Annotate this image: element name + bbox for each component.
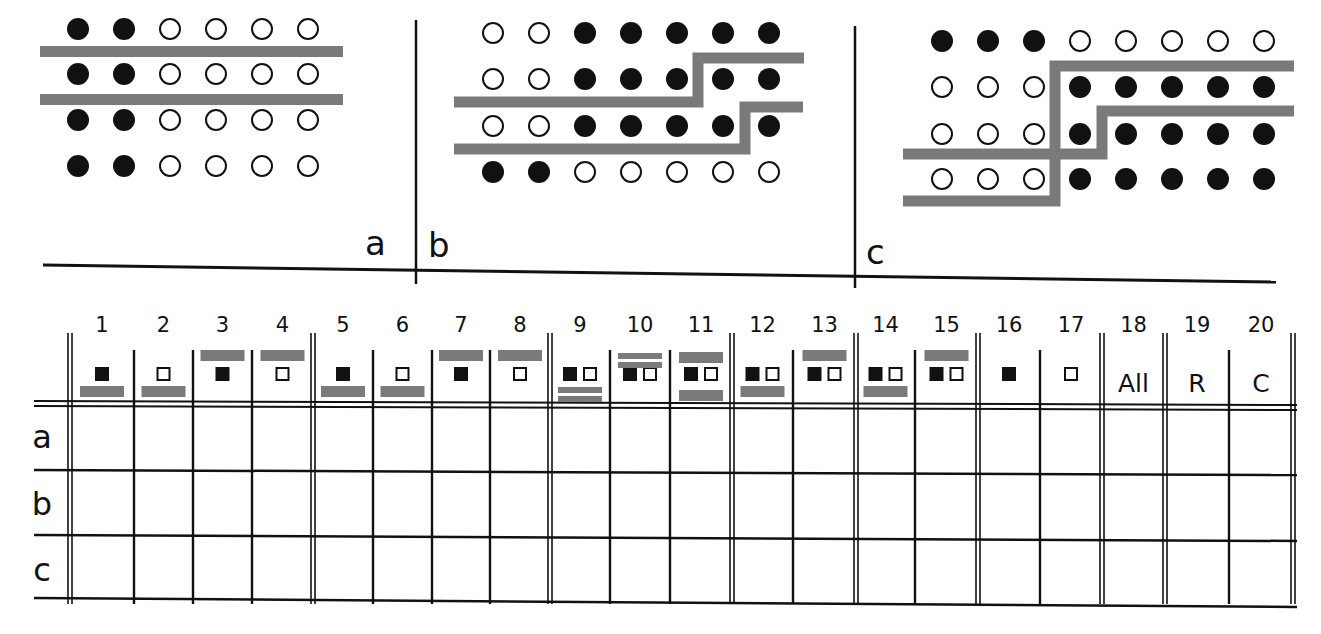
column-number-19: 19	[1184, 313, 1211, 337]
filled-square-icon	[684, 367, 698, 381]
bar-swatch	[321, 386, 365, 397]
filled-dot-icon	[574, 115, 596, 137]
filled-dot-icon	[574, 68, 596, 90]
filled-dot-icon	[1161, 123, 1183, 145]
filled-dot-icon	[620, 22, 642, 44]
row-rule	[34, 470, 1297, 475]
open-dot-icon	[483, 23, 503, 43]
open-dot-icon	[1254, 31, 1274, 51]
bar	[40, 94, 343, 105]
filled-dot-icon	[931, 30, 953, 52]
filled-square-icon	[454, 367, 468, 381]
open-dot-icon	[206, 19, 226, 39]
filled-dot-icon	[113, 18, 135, 40]
filled-dot-icon	[574, 22, 596, 44]
column-number-5: 5	[336, 313, 349, 337]
filled-square-icon	[1002, 367, 1016, 381]
filled-dot-icon	[758, 115, 780, 137]
column-symbol-text: All	[1118, 369, 1149, 398]
bar-swatch	[558, 396, 602, 402]
column-number-1: 1	[95, 313, 108, 337]
open-square-icon	[829, 368, 841, 380]
open-dot-icon	[529, 23, 549, 43]
row-label-c: c	[33, 551, 51, 589]
panel-label-a: a	[365, 223, 386, 263]
bar-swatch	[381, 386, 425, 397]
open-dot-icon	[160, 64, 180, 84]
figure-canvas: abc 123456789101112131415161718All19R20C…	[0, 0, 1321, 634]
filled-square-icon	[623, 367, 637, 381]
open-square-icon	[397, 368, 409, 380]
filled-dot-icon	[666, 115, 688, 137]
filled-dot-icon	[977, 30, 999, 52]
open-dot-icon	[160, 110, 180, 130]
baseline-divider	[43, 265, 1276, 282]
row-label-b: b	[32, 485, 52, 523]
column-number-13: 13	[811, 313, 838, 337]
column-number-2: 2	[157, 313, 170, 337]
column-number-16: 16	[996, 313, 1023, 337]
filled-dot-icon	[67, 155, 89, 177]
open-dot-icon	[160, 19, 180, 39]
open-dot-icon	[932, 77, 952, 97]
bar-swatch	[679, 352, 723, 363]
header-rule	[34, 406, 1297, 410]
filled-dot-icon	[1253, 76, 1275, 98]
open-dot-icon	[483, 69, 503, 89]
open-dot-icon	[160, 156, 180, 176]
bar-swatch	[80, 386, 124, 397]
open-dot-icon	[1116, 31, 1136, 51]
filled-dot-icon	[1115, 76, 1137, 98]
row-rule	[34, 598, 1297, 607]
open-square-icon	[277, 368, 289, 380]
filled-square-icon	[95, 367, 109, 381]
open-dot-icon	[713, 162, 733, 182]
filled-dot-icon	[666, 68, 688, 90]
filled-dot-icon	[1207, 76, 1229, 98]
filled-dot-icon	[528, 161, 550, 183]
panel-label-c: c	[866, 232, 885, 272]
column-number-4: 4	[276, 313, 289, 337]
header-rule	[34, 401, 1297, 405]
bar-swatch	[925, 350, 969, 361]
filled-square-icon	[930, 367, 944, 381]
column-symbol-text: C	[1252, 369, 1269, 398]
open-dot-icon	[529, 69, 549, 89]
column-number-9: 9	[573, 313, 586, 337]
bar	[40, 46, 343, 57]
open-square-icon	[951, 368, 963, 380]
open-dot-icon	[483, 116, 503, 136]
bar-swatch	[741, 386, 785, 397]
bar-swatch	[679, 390, 723, 401]
filled-dot-icon	[482, 161, 504, 183]
open-square-icon	[158, 368, 170, 380]
filled-dot-icon	[1207, 168, 1229, 190]
bar-swatch	[558, 387, 602, 393]
open-dot-icon	[1024, 77, 1044, 97]
filled-dot-icon	[758, 68, 780, 90]
open-dot-icon	[298, 19, 318, 39]
open-dot-icon	[206, 64, 226, 84]
filled-dot-icon	[1253, 123, 1275, 145]
response-table: 123456789101112131415161718All19R20Cabc	[32, 313, 1297, 607]
open-dot-icon	[529, 116, 549, 136]
open-dot-icon	[298, 110, 318, 130]
bar-swatch	[864, 386, 908, 397]
open-dot-icon	[252, 64, 272, 84]
open-square-icon	[705, 368, 717, 380]
row-rule	[34, 535, 1297, 541]
open-dot-icon	[1024, 169, 1044, 189]
filled-dot-icon	[1253, 168, 1275, 190]
open-dot-icon	[252, 156, 272, 176]
open-square-icon	[767, 368, 779, 380]
column-number-20: 20	[1248, 313, 1275, 337]
open-dot-icon	[621, 162, 641, 182]
open-dot-icon	[206, 110, 226, 130]
filled-dot-icon	[67, 63, 89, 85]
column-number-18: 18	[1120, 313, 1147, 337]
open-square-icon	[514, 368, 526, 380]
filled-square-icon	[336, 367, 350, 381]
panel-label-b: b	[428, 225, 450, 265]
row-label-a: a	[32, 418, 52, 456]
filled-dot-icon	[1069, 168, 1091, 190]
